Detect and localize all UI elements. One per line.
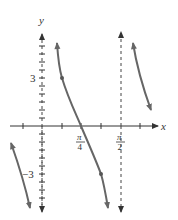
curve-right-branch xyxy=(133,43,151,110)
svg-text:4: 4 xyxy=(78,142,83,152)
x-tick-label-pi-over-4: π 4 xyxy=(76,132,85,152)
x-axis-label: x xyxy=(160,120,166,132)
cotangent-graph: x xyxy=(0,0,178,220)
x-axis xyxy=(10,123,158,129)
y-axis-label: y xyxy=(38,14,44,26)
x-tick-label-pi-over-2: π 2 xyxy=(116,132,125,152)
y-tick-label-3: 3 xyxy=(30,72,36,84)
point-3pi-over-8 xyxy=(99,172,103,176)
svg-text:π: π xyxy=(77,132,82,142)
svg-text:2: 2 xyxy=(118,142,123,152)
svg-text:π: π xyxy=(117,132,122,142)
point-pi-over-8 xyxy=(60,76,64,80)
y-tick-label-neg3: −3 xyxy=(22,168,34,180)
y-axis-asymptote xyxy=(39,34,45,212)
